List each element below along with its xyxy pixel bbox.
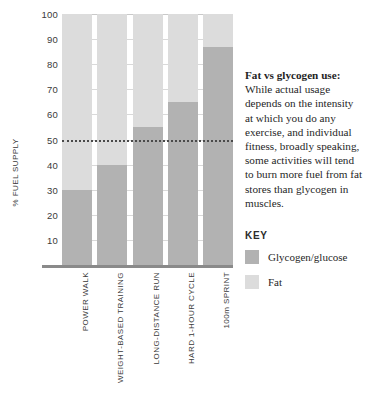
y-tick-label: 10	[30, 234, 58, 245]
y-tick-label: 40	[30, 159, 58, 170]
legend-item: Fat	[245, 275, 363, 289]
bar-segment-glycogen	[203, 47, 233, 265]
y-tick-label: 30	[30, 184, 58, 195]
x-tick-label: 100m SPRINT	[222, 272, 231, 329]
legend-item: Glycogen/glucose	[245, 250, 363, 264]
x-tick-label: POWER WALK	[81, 272, 90, 331]
x-tick-cell: LONG-DISTANCE RUN	[133, 268, 163, 388]
legend-swatch	[245, 250, 259, 264]
legend-label: Fat	[268, 276, 282, 288]
bar-segment-glycogen	[62, 190, 92, 265]
x-tick-cell: 100m SPRINT	[203, 268, 233, 388]
y-tick-label: 80	[30, 59, 58, 70]
plot-area	[62, 14, 233, 265]
x-tick-label: WEIGHT-BASED TRAINING	[116, 272, 125, 383]
explanatory-note: Fat vs glycogen use: While actual usage …	[245, 68, 363, 210]
y-tick-label: 90	[30, 34, 58, 45]
y-tick-label: 20	[30, 209, 58, 220]
y-tick-label: 100	[30, 9, 58, 20]
x-tick-cell: WEIGHT-BASED TRAINING	[97, 268, 127, 388]
y-axis-title: % FUEL SUPPLY	[11, 128, 20, 218]
legend-label: Glycogen/glucose	[268, 251, 347, 263]
legend: Glycogen/glucoseFat	[245, 250, 363, 289]
side-panel: Fat vs glycogen use: While actual usage …	[245, 68, 363, 300]
legend-swatch	[245, 275, 259, 289]
y-tick-label: 60	[30, 109, 58, 120]
bar-segment-glycogen	[133, 127, 163, 265]
x-tick-cell: HARD 1-HOUR CYCLE	[168, 268, 198, 388]
fifty-percent-threshold-line	[62, 140, 233, 142]
x-tick-label: LONG-DISTANCE RUN	[152, 272, 161, 364]
y-axis-tick-labels: 100908070605040302010	[30, 14, 58, 265]
bar-segment-glycogen	[97, 165, 127, 265]
note-body: While actual usage depends on the intens…	[245, 83, 362, 209]
y-tick-label: 50	[30, 134, 58, 145]
legend-title: KEY	[245, 230, 363, 241]
x-tick-label: HARD 1-HOUR CYCLE	[187, 272, 196, 364]
x-tick-cell: POWER WALK	[62, 268, 92, 388]
y-tick-label: 70	[30, 84, 58, 95]
fuel-supply-bar-chart: % FUEL SUPPLY 100908070605040302010 POWE…	[0, 0, 240, 410]
x-axis-tick-labels: POWER WALKWEIGHT-BASED TRAININGLONG-DIST…	[62, 268, 233, 388]
note-heading: Fat vs glycogen use:	[245, 69, 340, 81]
bar-segment-glycogen	[168, 102, 198, 265]
